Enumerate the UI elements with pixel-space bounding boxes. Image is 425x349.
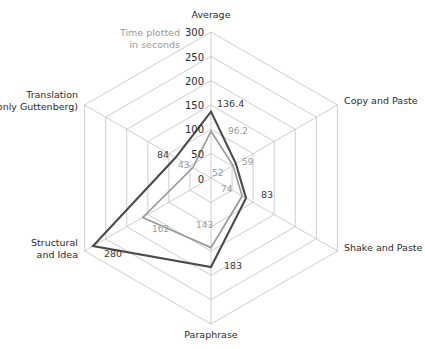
grid-spokes [85, 32, 338, 324]
note-line2: in seconds [129, 39, 180, 50]
value-gray-translation: 43 [178, 160, 189, 170]
tick-label-200: 200 [185, 76, 204, 87]
value-gray-copy-and-paste-inner: 52 [212, 168, 223, 178]
axis-label-shake-and-paste: Shake and Paste [344, 242, 423, 253]
note-line1: Time plotted [119, 27, 180, 38]
value-dark-structural-and-idea: 280 [104, 248, 122, 259]
axis-label-structural-and-idea-line1: Structural [31, 237, 78, 248]
radar-chart: Average Copy and Paste Shake and Paste P… [0, 0, 425, 349]
tick-label-150: 150 [185, 100, 204, 111]
axis-label-average: Average [191, 9, 230, 20]
value-gray-structural-and-idea: 162 [152, 224, 169, 234]
radar-chart-svg: Average Copy and Paste Shake and Paste P… [0, 0, 425, 349]
value-gray-shake-and-paste: 74 [221, 184, 233, 194]
tick-label-100: 100 [185, 124, 204, 135]
value-gray-average: 96.2 [228, 126, 248, 136]
axis-label-paraphrase: Paraphrase [184, 329, 238, 340]
value-dark-average: 136.4 [217, 98, 244, 109]
value-dark-paraphrase: 183 [224, 260, 242, 271]
value-gray-paraphrase: 143 [196, 220, 213, 230]
value-gray-copy-and-paste-outer: 59 [242, 157, 254, 167]
tick-label-50: 50 [191, 149, 204, 160]
note-annotation: Time plotted in seconds [119, 27, 180, 50]
axis-label-structural-and-idea-line2: and Idea [37, 249, 78, 260]
value-dark-shake-and-paste: 83 [261, 189, 273, 200]
tick-label-0: 0 [198, 174, 204, 185]
tick-label-300: 300 [185, 27, 204, 38]
value-dark-translation: 84 [157, 149, 169, 160]
axis-label-translation-line2: (only Guttenberg) [0, 101, 78, 112]
axis-label-translation-line1: Translation [25, 89, 78, 100]
axis-label-copy-and-paste: Copy and Paste [344, 95, 418, 106]
tick-label-250: 250 [185, 52, 204, 63]
